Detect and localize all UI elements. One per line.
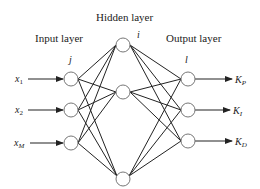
input-node-M [64,136,78,150]
hidden-node-2 [116,85,130,99]
input-nodes [64,72,78,150]
output-label-P: KP [234,74,247,87]
output-node-P [181,72,195,86]
input-label-1: x1 [14,73,23,86]
output-index: l [185,54,188,65]
input-arrows [28,79,63,143]
output-node-D [181,134,195,148]
output-label-I: KI [232,105,243,118]
output-layer-title: Output layer [166,32,222,44]
hidden-node-3 [116,172,130,186]
neural-network-diagram: Hidden layer Input layer Output layer j … [0,0,260,189]
output-arrows [195,79,232,141]
hidden-index: i [137,29,140,40]
output-nodes [181,72,195,148]
input-layer-title: Input layer [35,32,83,44]
input-node-1 [64,72,78,86]
input-index: j [67,54,72,65]
hidden-nodes [116,38,130,186]
input-label-2: x2 [14,104,23,117]
input-node-2 [64,103,78,117]
hidden-layer-title: Hidden layer [96,11,153,23]
output-node-I [181,103,195,117]
output-label-D: KD [234,136,247,149]
hidden-node-1 [116,38,130,52]
hidden-output-connections [129,45,181,176]
input-hidden-connections [78,45,117,176]
input-label-M: xM [13,137,25,150]
